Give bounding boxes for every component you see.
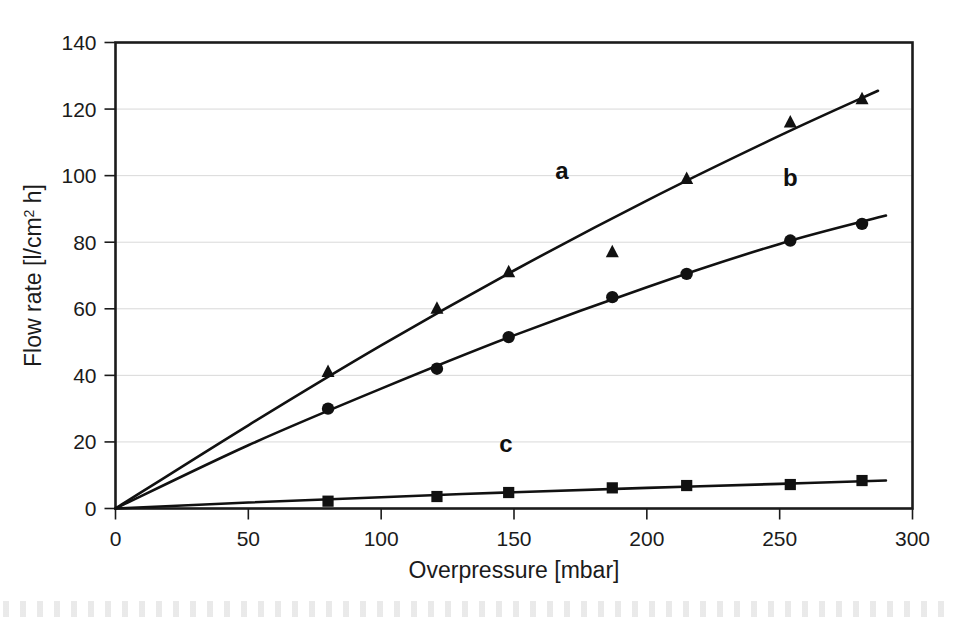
x-tick-label-100: 100 [364,527,399,550]
marker-series-b-6 [856,218,868,230]
chart-figure: 050100150200250300 020406080100120140 ab… [0,0,953,619]
x-tick-label-0: 0 [110,527,122,550]
chart-background [0,0,953,619]
x-tick-label-150: 150 [496,527,531,550]
marker-series-c-0 [322,496,333,507]
x-tick-label-50: 50 [237,527,260,550]
marker-series-c-2 [503,487,514,498]
y-tick-label-40: 40 [73,364,96,387]
x-axis-title: Overpressure [mbar] [409,557,620,583]
y-tick-label-140: 140 [61,31,96,54]
y-tick-label-0: 0 [85,497,97,520]
y-tick-label-20: 20 [73,430,96,453]
marker-series-b-4 [680,268,692,280]
series-label-b: b [783,164,798,191]
y-tick-label-100: 100 [61,164,96,187]
marker-series-b-2 [502,331,514,343]
marker-series-c-5 [785,479,796,490]
marker-series-c-4 [681,480,692,491]
x-tick-label-300: 300 [895,527,930,550]
flow-rate-vs-overpressure-chart: 050100150200250300 020406080100120140 ab… [0,0,953,619]
marker-series-b-5 [784,234,796,246]
marker-series-b-1 [431,363,443,375]
marker-series-c-6 [856,475,867,486]
x-tick-label-250: 250 [762,527,797,550]
marker-series-b-3 [606,291,618,303]
y-tick-label-80: 80 [73,231,96,254]
series-label-a: a [555,157,569,184]
x-tick-label-200: 200 [629,527,664,550]
marker-series-c-3 [607,482,618,493]
y-tick-label-120: 120 [61,98,96,121]
y-tick-label-60: 60 [73,297,96,320]
marker-series-b-0 [322,402,334,414]
series-label-c: c [499,430,512,457]
marker-series-c-1 [431,491,442,502]
